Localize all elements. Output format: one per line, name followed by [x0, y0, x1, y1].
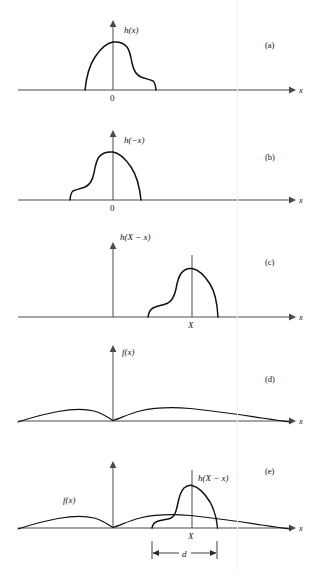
panel-a-origin-label: 0 — [110, 93, 115, 103]
panel-a-y-arrowhead — [110, 20, 117, 27]
panel-b-y-label: h(−x) — [124, 135, 145, 145]
panel-d-label: (d) — [265, 374, 275, 384]
panel-e: f(x) h(X − x) X x (e) d — [18, 461, 303, 559]
panel-c-y-label: h(X − x) — [120, 232, 151, 242]
panel-c-x-label: x — [298, 312, 303, 322]
panel-d-f-curve — [18, 408, 290, 422]
scan-artifact-line — [237, 0, 238, 570]
panel-d-y-label: f(x) — [122, 347, 135, 357]
panel-b-y-arrowhead — [110, 130, 117, 137]
panel-b-h-curve — [70, 152, 141, 200]
panel-a-y-label: h(x) — [124, 25, 139, 35]
panel-a-x-arrowhead — [289, 87, 296, 94]
panel-b: h(−x) 0 x (b) — [18, 130, 303, 213]
panel-e-x-label: x — [298, 523, 303, 533]
panel-c-h-curve — [148, 268, 218, 317]
panel-c-x-arrowhead — [289, 314, 296, 321]
panel-d: f(x) x (d) — [18, 345, 303, 426]
panel-b-x-arrowhead — [289, 197, 296, 204]
panel-b-x-label: x — [298, 195, 303, 205]
panel-a: h(x) 0 x (a) — [18, 20, 303, 103]
dimension-label: d — [182, 549, 187, 559]
dimension-left-arrowhead — [153, 550, 160, 556]
panel-d-x-label: x — [298, 416, 303, 426]
panel-e-h-curve — [152, 485, 218, 528]
panel-e-f-label: f(x) — [63, 495, 76, 505]
panel-c: h(X − x) X x (c) — [18, 232, 303, 330]
panel-e-f-curve — [18, 515, 290, 529]
panel-b-label: (b) — [265, 152, 275, 162]
dimension-right-arrowhead — [210, 550, 217, 556]
panel-e-h-label: h(X − x) — [198, 473, 229, 483]
panel-d-x-arrowhead — [289, 418, 296, 425]
panel-d-y-arrowhead — [110, 345, 117, 352]
panel-e-x-arrowhead — [289, 525, 296, 532]
panel-c-label: (c) — [265, 257, 275, 267]
panel-b-origin-label: 0 — [110, 203, 115, 213]
panel-e-marker-label: X — [187, 531, 194, 541]
dimension-d: d — [152, 541, 217, 559]
panel-e-y-arrowhead — [110, 461, 117, 468]
panel-a-h-curve — [85, 42, 156, 90]
panel-c-y-arrowhead — [110, 242, 117, 249]
panel-a-label: (a) — [265, 40, 275, 50]
convolution-figure: h(x) 0 x (a) h(−x) 0 x (b) h(X − x) X — [0, 0, 313, 570]
panel-c-marker-label: X — [187, 320, 194, 330]
panel-e-label: (e) — [265, 466, 275, 476]
panel-a-x-label: x — [298, 85, 303, 95]
